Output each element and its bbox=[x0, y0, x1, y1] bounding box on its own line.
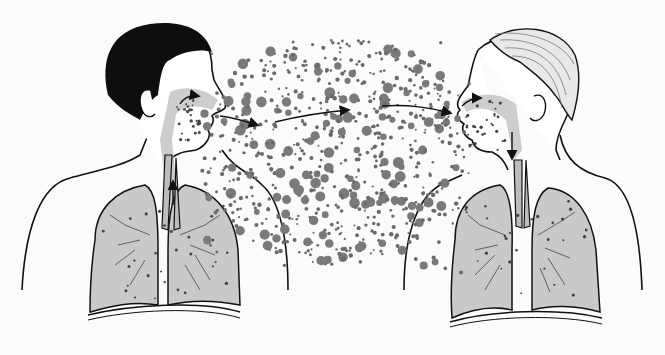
illustration-canvas bbox=[0, 0, 665, 355]
left-person-lungs bbox=[88, 155, 240, 320]
transmission-illustration bbox=[0, 0, 665, 355]
right-person-lungs bbox=[450, 160, 602, 327]
left-person bbox=[22, 23, 288, 320]
